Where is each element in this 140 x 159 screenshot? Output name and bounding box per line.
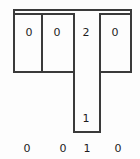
box-d-bottom-line <box>99 71 132 73</box>
divider-right-edge <box>130 9 132 72</box>
divider-stem-left <box>73 13 75 133</box>
binary-cell-diagram: 0 0 2 0 1 0 0 1 0 <box>0 0 140 159</box>
stem-value: 1 <box>78 113 94 124</box>
cell-value-2: 0 <box>49 27 65 38</box>
cell-value-3: 2 <box>78 27 94 38</box>
divider-cell1-cell2 <box>41 13 43 72</box>
stem-bottom-line <box>73 131 101 133</box>
box-d-top-line <box>99 13 132 15</box>
bottom-label-2: 0 <box>55 143 71 154</box>
top-rail-line <box>13 9 132 11</box>
bottom-label-4: 0 <box>110 143 126 154</box>
box-group-a-bottom-line <box>13 71 75 73</box>
bottom-label-3: 1 <box>79 143 95 154</box>
cell-value-4: 0 <box>107 27 123 38</box>
box-group-a-top-line <box>13 13 75 15</box>
divider-stem-right <box>99 13 101 133</box>
bottom-label-1: 0 <box>19 143 35 154</box>
cell-value-1: 0 <box>21 27 37 38</box>
divider-left-edge <box>13 9 15 72</box>
